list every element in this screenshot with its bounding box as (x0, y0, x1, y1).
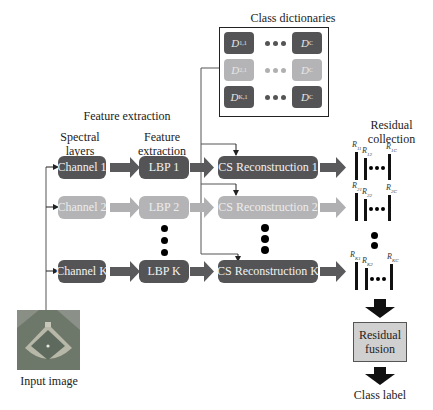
channel-1-box: Channel 1 (58, 156, 106, 179)
class-dictionaries-panel: D1,1 DC D2,1 DC DK,1 DC (219, 27, 329, 117)
residual-label-r12: R12 (362, 146, 372, 157)
dictionary-dkc: DC (292, 86, 322, 108)
dictionary-d1c: DC (292, 32, 322, 54)
class-dictionaries-title: Class dictionaries (238, 11, 348, 25)
cs-reconstruction-2-box: CS Reconstruction 2 (218, 196, 318, 219)
cs-reconstruction-k-box: CS Reconstruction K (218, 260, 318, 283)
ellipsis-dot (265, 41, 270, 46)
dictionary-d11: D1,1 (224, 32, 254, 54)
residual-label-r1c: R1C (386, 142, 397, 153)
input-image-caption: Input image (5, 374, 93, 388)
arrow-channel1-lbp1 (110, 157, 140, 178)
baseball-field-image (17, 310, 80, 370)
feature-extraction-column-title: Feature extraction (134, 130, 190, 158)
channel-k-box: Channel K (58, 260, 106, 283)
dictionary-d21: D2,1 (224, 59, 254, 81)
cs-reconstruction-1-box: CS Reconstruction 1 (218, 156, 318, 179)
residual-label-r11: R11 (352, 140, 362, 151)
vertical-ellipsis-dot (261, 224, 269, 232)
spectral-layers-title: Spectral layers (55, 130, 105, 158)
lbp-k-box: LBP K (139, 260, 189, 283)
channel-2-box: Channel 2 (58, 196, 106, 219)
residual-fusion-box: Residual fusion (353, 322, 407, 362)
residual-label-rk2: RK2 (362, 256, 373, 267)
lbp-1-box: LBP 1 (139, 156, 189, 179)
dictionary-d2c: DC (292, 59, 322, 81)
residual-label-rk1: RK1 (350, 250, 361, 261)
residual-label-rkc: RKC (387, 252, 399, 263)
residual-bar (355, 152, 358, 180)
residual-label-r2c: R2C (386, 183, 397, 194)
feature-extraction-group-title: Feature extraction (72, 109, 182, 123)
vertical-ellipsis-dot (161, 225, 168, 232)
residual-label-r21: R21 (352, 181, 362, 192)
input-image-thumbnail (17, 310, 80, 370)
vertical-ellipsis-dot (371, 232, 378, 239)
lbp-2-box: LBP 2 (139, 196, 189, 219)
dictionary-dk1: DK,1 (224, 86, 254, 108)
residual-label-r22: R22 (362, 187, 372, 198)
class-label-title: Class label (345, 388, 415, 402)
